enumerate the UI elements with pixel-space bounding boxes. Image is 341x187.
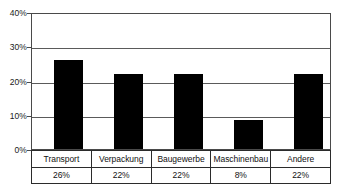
y-tick-label-40: 40% (0, 9, 27, 18)
table-cell-value-andere: 22% (271, 168, 331, 184)
bar-andere (294, 74, 323, 149)
y-tick-label-10: 10% (0, 112, 27, 121)
table-row-categories: Transport Verpackung Baugewerbe Maschine… (32, 151, 331, 168)
gridline-30 (32, 48, 330, 49)
table-row-values: 26% 22% 22% 8% 22% (32, 168, 331, 184)
bar-chart-figure: 40% 30% 20% 10% 0% Transport Verpackung … (0, 0, 341, 187)
table-cell-category-verpackung: Verpackung (91, 151, 151, 168)
table-cell-category-baugewerbe: Baugewerbe (151, 151, 211, 168)
bar-maschinenbau (234, 120, 263, 149)
table-cell-category-andere: Andere (271, 151, 331, 168)
table-cell-value-transport: 26% (32, 168, 92, 184)
data-table: Transport Verpackung Baugewerbe Maschine… (31, 150, 331, 184)
y-tick-label-30: 30% (0, 43, 27, 52)
plot-area (31, 13, 331, 150)
y-tick-label-0: 0% (0, 146, 27, 155)
bar-verpackung (114, 74, 143, 149)
bar-transport (54, 60, 83, 149)
table-cell-category-maschinenbau: Maschinenbau (211, 151, 271, 168)
table-cell-value-maschinenbau: 8% (211, 168, 271, 184)
y-tick-label-20: 20% (0, 78, 27, 87)
table-cell-value-verpackung: 22% (91, 168, 151, 184)
bar-baugewerbe (174, 74, 203, 149)
table-cell-category-transport: Transport (32, 151, 92, 168)
table-cell-value-baugewerbe: 22% (151, 168, 211, 184)
